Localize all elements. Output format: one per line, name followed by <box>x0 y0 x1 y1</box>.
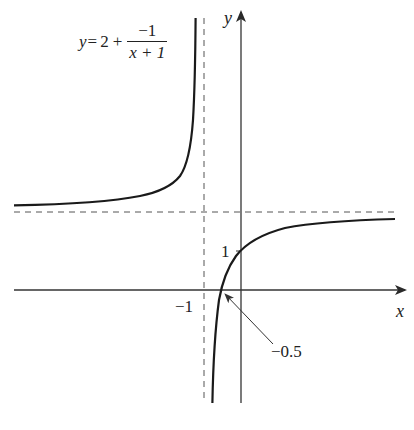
function-graph: y = 2 + −1 x + 1 y x −1 1 −0.5 <box>0 0 414 430</box>
formula-numerator: −1 <box>136 22 158 41</box>
formula-equals: = <box>88 32 98 52</box>
curve-right-branch <box>212 219 395 403</box>
formula-lhs: y <box>79 32 87 52</box>
formula-plus: + <box>113 32 123 52</box>
formula-constant: 2 <box>100 32 109 52</box>
plot-area <box>0 0 414 430</box>
x-intercept-label: −0.5 <box>271 343 302 360</box>
y-axis-label: y <box>224 9 232 27</box>
intercept-arrow <box>225 294 273 344</box>
x-tick-label-neg1: −1 <box>175 298 193 315</box>
formula-denominator: x + 1 <box>127 42 167 61</box>
y-tick-label-1: 1 <box>221 243 230 260</box>
x-axis-label: x <box>396 302 404 320</box>
function-formula-label: y = 2 + −1 x + 1 <box>79 22 167 61</box>
formula-fraction: −1 x + 1 <box>127 22 167 61</box>
